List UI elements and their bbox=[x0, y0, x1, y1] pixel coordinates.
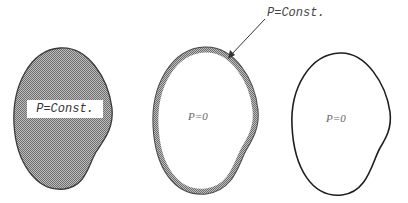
plain-outline-label: P=0 bbox=[326, 112, 346, 124]
callout-label: P=Const. bbox=[267, 6, 325, 20]
filled-region-shape bbox=[14, 48, 112, 189]
filled-region-label: P=Const. bbox=[27, 100, 103, 118]
hatched-boundary-label: P=0 bbox=[188, 110, 208, 122]
callout-arrow-line bbox=[231, 19, 265, 55]
plain-outline-shape bbox=[292, 53, 391, 195]
